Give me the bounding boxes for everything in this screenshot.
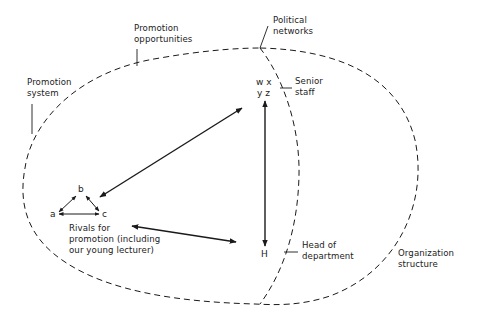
outer-boundary-ellipse (23, 48, 418, 305)
node-head: H (261, 249, 268, 259)
label-head-of-department: Head of department (302, 240, 354, 262)
arrow-b-c (86, 196, 99, 211)
diagram-canvas (0, 0, 478, 318)
arrow-rivals-senior (100, 108, 242, 197)
label-promotion-opportunities: Promotion opportunities (134, 23, 192, 45)
node-senior-row1: w x (256, 77, 272, 87)
node-c: c (102, 209, 107, 219)
arrow-a-b (59, 196, 76, 212)
node-b: b (78, 184, 84, 194)
label-political-networks: Political networks (273, 15, 313, 37)
label-senior-staff: Senior staff (295, 76, 323, 98)
label-rivals: Rivals for promotion (including our youn… (69, 223, 160, 256)
node-a: a (50, 209, 56, 219)
node-senior-row2: y z (257, 88, 270, 98)
political-networks-leader (260, 26, 268, 48)
label-promotion-system: Promotion system (27, 77, 72, 99)
label-organization-structure: Organization structure (398, 248, 454, 270)
